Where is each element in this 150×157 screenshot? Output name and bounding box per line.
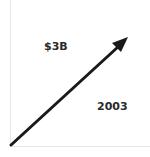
growth-arrow-icon <box>0 0 150 157</box>
growth-diagram: $3B 2003 <box>0 0 150 157</box>
value-label: $3B <box>44 40 68 53</box>
year-label: 2003 <box>97 100 128 113</box>
